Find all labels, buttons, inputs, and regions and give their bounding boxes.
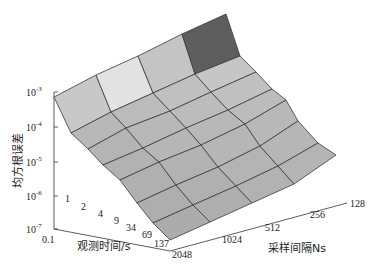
y-tick-label: 1024 (222, 234, 242, 245)
x-tick-label: 34 (126, 222, 136, 233)
y-tick-label: 256 (310, 209, 325, 220)
x-tick-label: 69 (142, 229, 152, 240)
z-axis-ticks: 10-710-610-510-410-3 (26, 85, 58, 235)
y-axis-label: 采样间隔Ns (268, 241, 326, 255)
surface-mesh (54, 14, 336, 240)
z-tick-label: 10-4 (26, 120, 42, 133)
surface-chart: 10-710-610-510-410-3 0.112493469137 2048… (0, 0, 383, 271)
z-axis-label: 均方根误差 (11, 133, 25, 188)
y-tick-label: 512 (265, 222, 280, 233)
x-axis-label: 观测时间/s (77, 240, 131, 253)
z-tick-label: 10-6 (26, 189, 42, 202)
y-tick-label: 128 (350, 198, 365, 209)
x-tick-label: 2 (81, 201, 86, 212)
x-tick-label: 1 (65, 193, 70, 204)
x-tick-label: 137 (154, 238, 169, 249)
z-tick-label: 10-3 (26, 85, 42, 98)
z-tick-label: 10-5 (26, 155, 42, 168)
x-tick-label: 4 (98, 208, 103, 219)
x-tick-label: 0.1 (42, 234, 55, 245)
x-tick-label: 9 (114, 215, 119, 226)
y-tick-label: 2048 (172, 249, 192, 260)
z-tick-label: 10-7 (26, 222, 42, 235)
